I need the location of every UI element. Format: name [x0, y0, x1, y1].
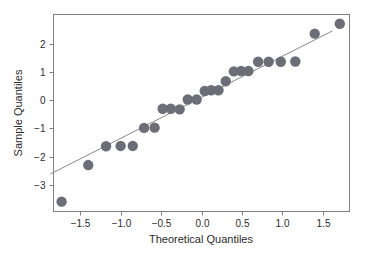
data-point: [335, 19, 345, 29]
y-tick-label: 0: [40, 95, 46, 106]
data-point: [139, 123, 149, 133]
data-point: [83, 160, 93, 170]
y-tick-label: −2: [34, 152, 46, 163]
x-tick-label: 0.0: [196, 218, 210, 229]
data-point: [276, 57, 286, 67]
data-point: [213, 85, 223, 95]
y-tick-label: 1: [40, 67, 46, 78]
data-point: [310, 28, 320, 38]
data-point: [128, 141, 138, 151]
data-point: [115, 141, 125, 151]
data-point: [56, 196, 66, 206]
x-tick-label: −0.5: [152, 218, 172, 229]
y-tick-label: −1: [34, 123, 46, 134]
data-point: [183, 94, 193, 104]
data-point: [290, 56, 300, 66]
x-tick-label: −1.0: [112, 218, 132, 229]
data-point: [174, 104, 184, 114]
y-axis-label: Sample Quantiles: [12, 69, 24, 156]
qq-plot-canvas: −1.5−1.0−0.50.00.51.01.5 210−1−2−3 Theor…: [0, 0, 369, 254]
x-tick-label: −1.5: [71, 218, 91, 229]
x-axis-label: Theoretical Quantiles: [149, 233, 253, 245]
data-point: [149, 122, 159, 132]
qq-plot-figure: −1.5−1.0−0.50.00.51.01.5 210−1−2−3 Theor…: [0, 0, 369, 254]
x-tick-label: 0.5: [236, 218, 250, 229]
y-tick-label: 2: [40, 39, 46, 50]
data-point: [221, 76, 231, 86]
x-tick-label: 1.5: [317, 218, 331, 229]
data-point: [101, 141, 111, 151]
y-tick-label: −3: [34, 180, 46, 191]
data-point: [243, 66, 253, 76]
x-tick-label: 1.0: [276, 218, 290, 229]
data-point: [263, 57, 273, 67]
data-point: [166, 104, 176, 114]
data-point: [191, 94, 201, 104]
data-point: [253, 57, 263, 67]
